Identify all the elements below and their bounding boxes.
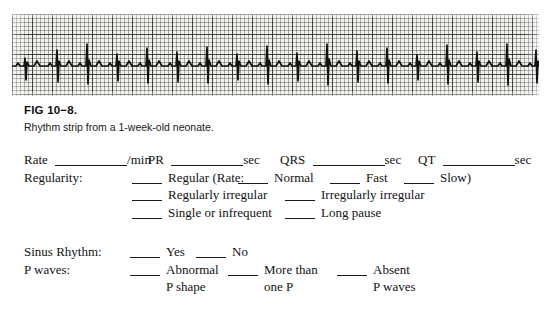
qrs-label: QRS — [280, 152, 305, 168]
qrs-input-blank[interactable] — [313, 154, 385, 166]
long-pause-checkbox-blank[interactable] — [285, 207, 315, 219]
ecg-waveform-trace — [12, 14, 539, 96]
sinus-yes-label: Yes — [166, 244, 185, 260]
regular-checkbox-blank[interactable] — [132, 172, 162, 184]
field-qt: QT sec — [418, 152, 531, 168]
qrs-unit: sec — [385, 152, 402, 168]
regularity-regular-group: Regular (Rate: — [132, 170, 244, 186]
rate-input-blank[interactable] — [55, 154, 127, 166]
sinus-no-checkbox-blank[interactable] — [196, 246, 226, 258]
sinus-yes-checkbox-blank[interactable] — [130, 246, 160, 258]
form-row-irregular: Regularly irregular Irregularly irregula… — [0, 187, 550, 205]
p-waves-label: P waves: — [24, 262, 70, 278]
irregularly-irregular-label: Irregularly irregular — [321, 187, 425, 203]
normal-checkbox-blank[interactable] — [238, 172, 268, 184]
p-absent-label: Absent — [373, 262, 410, 278]
form-row-intervals: Rate /min PR sec QRS sec QT sec — [0, 152, 550, 170]
regularity-label: Regularity: — [24, 170, 83, 186]
sinus-no-group: No — [196, 244, 248, 260]
fast-label: Fast — [366, 170, 388, 186]
slow-checkbox-blank[interactable] — [404, 172, 434, 184]
qt-unit: sec — [515, 152, 532, 168]
field-pr: PR sec — [148, 152, 260, 168]
rate-label: Rate — [24, 152, 48, 168]
p-more-than-group: More than — [228, 262, 318, 278]
form-row-sinus-rhythm: Sinus Rhythm: Yes No — [0, 244, 550, 262]
regularly-irregular-label: Regularly irregular — [168, 187, 267, 203]
form-row-p-waves: P waves: Abnormal More than Absent — [0, 262, 550, 280]
field-qrs: QRS sec — [280, 152, 401, 168]
figure-caption-block: FIG 10−8. Rhythm strip from a 1-week-old… — [24, 103, 444, 135]
field-rate: Rate /min — [24, 152, 151, 168]
pr-label: PR — [148, 152, 164, 168]
single-or-infrequent-group: Single or infrequent — [132, 205, 272, 221]
p-absent-group: Absent — [337, 262, 410, 278]
p-absent-label-line2: P waves — [373, 279, 416, 295]
pr-unit: sec — [243, 152, 260, 168]
form-spacer — [0, 222, 550, 244]
form-row-pause: Single or infrequent Long pause — [0, 205, 550, 223]
figure-caption-text: Rhythm strip from a 1-week-old neonate. — [24, 120, 444, 135]
single-or-infrequent-checkbox-blank[interactable] — [132, 207, 162, 219]
p-abnormal-label-line2: P shape — [166, 279, 206, 295]
single-or-infrequent-label: Single or infrequent — [168, 205, 272, 221]
figure-number: FIG 10−8. — [24, 103, 444, 117]
regularity-slow-group: Slow) — [404, 170, 471, 186]
p-more-than-label: More than — [264, 262, 318, 278]
regularity-normal-group: Normal — [238, 170, 314, 186]
sinus-rhythm-label: Sinus Rhythm: — [24, 244, 102, 260]
fast-checkbox-blank[interactable] — [330, 172, 360, 184]
regular-label: Regular (Rate: — [168, 170, 244, 186]
p-abnormal-checkbox-blank[interactable] — [130, 264, 160, 276]
form-row-regularity: Regularity: Regular (Rate: Normal Fast S… — [0, 170, 550, 188]
p-abnormal-group: Abnormal — [130, 262, 219, 278]
qt-label: QT — [418, 152, 435, 168]
long-pause-group: Long pause — [285, 205, 381, 221]
regularly-irregular-checkbox-blank[interactable] — [132, 189, 162, 201]
normal-label: Normal — [274, 170, 314, 186]
p-more-than-checkbox-blank[interactable] — [228, 264, 258, 276]
irregularly-irregular-checkbox-blank[interactable] — [285, 189, 315, 201]
regularity-fast-group: Fast — [330, 170, 388, 186]
sinus-no-label: No — [232, 244, 248, 260]
pr-input-blank[interactable] — [171, 154, 243, 166]
p-abnormal-label: Abnormal — [166, 262, 219, 278]
p-absent-checkbox-blank[interactable] — [337, 264, 367, 276]
qt-input-blank[interactable] — [443, 154, 515, 166]
irregularly-irregular-group: Irregularly irregular — [285, 187, 425, 203]
long-pause-label: Long pause — [321, 205, 381, 221]
p-more-than-label-line2: one P — [264, 279, 293, 295]
slow-label: Slow) — [440, 170, 471, 186]
sinus-yes-group: Yes — [130, 244, 185, 260]
ecg-interpretation-worksheet: Rate /min PR sec QRS sec QT sec Regulari… — [0, 152, 550, 297]
regularly-irregular-group: Regularly irregular — [132, 187, 267, 203]
ecg-rhythm-strip-figure — [12, 14, 539, 96]
form-row-p-waves-cont: P shape one P P waves — [0, 279, 550, 297]
